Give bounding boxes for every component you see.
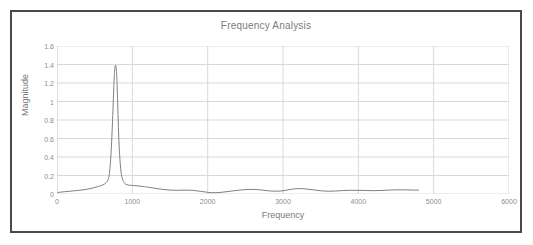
plot-area [57, 46, 509, 194]
y-tick-label: 1 [28, 98, 54, 105]
screenshot-root: Frequency Analysis 00.20.40.60.811.21.41… [0, 0, 533, 245]
magnitude-series-line [57, 65, 419, 193]
y-tick-label: 1.6 [28, 43, 54, 50]
x-axis-title: Frequency [57, 210, 509, 220]
chart-canvas: Frequency Analysis 00.20.40.60.811.21.41… [12, 12, 520, 231]
y-tick-label: 0.4 [28, 154, 54, 161]
y-axis-title: Magnitude [20, 55, 30, 135]
x-axis-tick-labels: 0100020003000400050006000 [57, 198, 509, 210]
x-tick-label: 3000 [275, 198, 291, 205]
y-tick-label: 1.4 [28, 61, 54, 68]
plot-svg [57, 46, 509, 194]
x-tick-label: 1000 [125, 198, 141, 205]
x-tick-label: 0 [55, 198, 59, 205]
x-tick-label: 4000 [351, 198, 367, 205]
y-tick-label: 0.6 [28, 135, 54, 142]
x-tick-label: 5000 [426, 198, 442, 205]
y-tick-label: 0 [28, 191, 54, 198]
x-tick-label: 6000 [501, 198, 517, 205]
y-tick-label: 0.2 [28, 172, 54, 179]
y-tick-label: 1.2 [28, 80, 54, 87]
y-tick-label: 0.8 [28, 117, 54, 124]
chart-title: Frequency Analysis [12, 20, 520, 31]
chart-frame: Frequency Analysis 00.20.40.60.811.21.41… [10, 10, 522, 233]
x-tick-label: 2000 [200, 198, 216, 205]
